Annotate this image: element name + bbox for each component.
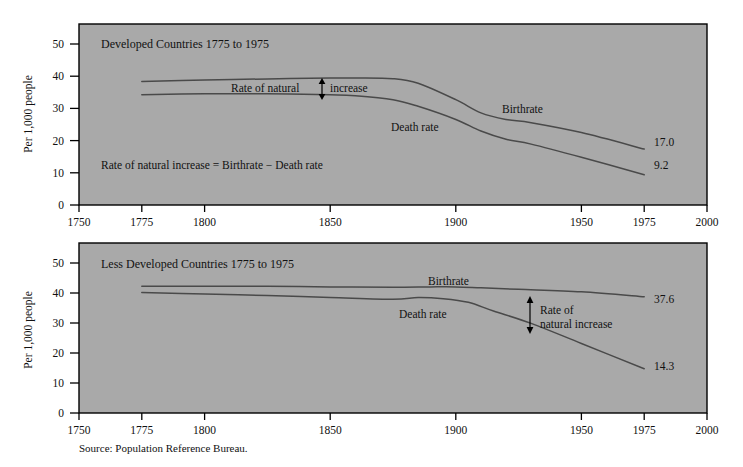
- y-tick-label: 20: [53, 135, 65, 147]
- y-tick-label: 50: [53, 38, 65, 50]
- y-tick-label: 0: [58, 407, 64, 419]
- natural-increase-label-before: Rate of natural: [231, 82, 299, 94]
- chart-developed-countries: 0 10 20 30 40 50 Per 1,000 people 1750 1…: [22, 24, 719, 228]
- x-tick-label: 1900: [444, 216, 467, 228]
- source-note: Source: Population Reference Bureau.: [79, 442, 248, 454]
- x-tick-label: 1975: [633, 424, 656, 436]
- x-tick-label: 1900: [444, 424, 467, 436]
- x-tick-label: 1750: [68, 216, 91, 228]
- x-tick-label: 1950: [570, 216, 593, 228]
- y-axis-title: Per 1,000 people: [22, 75, 35, 153]
- x-tick-label: 1750: [68, 424, 91, 436]
- y-tick-label: 10: [53, 167, 65, 179]
- x-tick-label: 1950: [570, 424, 593, 436]
- death-rate-series-label: Death rate: [399, 308, 447, 320]
- y-axis-title: Per 1,000 people: [22, 291, 35, 369]
- y-tick-label: 0: [58, 199, 64, 211]
- x-axis-ticks: [79, 413, 707, 420]
- natural-increase-label-after: increase: [330, 82, 368, 94]
- natural-increase-formula: Rate of natural increase = Birthrate − D…: [101, 159, 323, 171]
- death-rate-series-label: Death rate: [391, 121, 439, 133]
- y-tick-label: 50: [53, 257, 65, 269]
- y-tick-label: 30: [53, 317, 65, 329]
- y-axis-ticks: [70, 44, 79, 205]
- birthrate-series-label: Birthrate: [428, 275, 469, 287]
- x-tick-label: 1800: [193, 216, 216, 228]
- x-axis-ticks: [79, 205, 707, 212]
- chart-canvas: 0 10 20 30 40 50 Per 1,000 people 1750 1…: [0, 0, 743, 467]
- birthrate-end-value: 17.0: [654, 136, 674, 148]
- death-rate-end-value: 14.3: [654, 360, 674, 372]
- y-tick-label: 40: [53, 70, 65, 82]
- x-tick-label: 1975: [633, 216, 656, 228]
- x-tick-label: 1850: [319, 424, 342, 436]
- death-rate-end-value: 9.2: [654, 159, 669, 171]
- y-tick-label: 40: [53, 287, 65, 299]
- x-tick-label: 2000: [696, 216, 719, 228]
- y-axis-ticks: [70, 263, 79, 413]
- population-transition-figure: 0 10 20 30 40 50 Per 1,000 people 1750 1…: [0, 0, 743, 467]
- natural-increase-label-line2: natural increase: [540, 318, 612, 330]
- chart-less-developed-countries: 0 10 20 30 40 50 Per 1,000 people 1750 1…: [22, 243, 719, 436]
- x-tick-label: 1850: [319, 216, 342, 228]
- natural-increase-label-line1: Rate of: [540, 304, 574, 316]
- birthrate-end-value: 37.6: [654, 293, 674, 305]
- y-tick-label: 30: [53, 102, 65, 114]
- chart-title-less-developed: Less Developed Countries 1775 to 1975: [101, 257, 294, 271]
- x-tick-label: 2000: [696, 424, 719, 436]
- y-tick-label: 20: [53, 347, 65, 359]
- y-tick-label: 10: [53, 377, 65, 389]
- plot-area-background: [79, 24, 707, 205]
- birthrate-series-label: Birthrate: [502, 103, 543, 115]
- chart-title-developed: Developed Countries 1775 to 1975: [101, 37, 269, 51]
- x-tick-label: 1775: [130, 216, 153, 228]
- x-tick-label: 1775: [130, 424, 153, 436]
- x-tick-label: 1800: [193, 424, 216, 436]
